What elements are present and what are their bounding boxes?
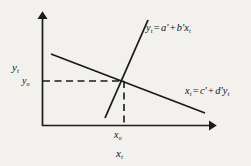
x-axis-label-sub: t [121, 153, 123, 160]
x-axis-label: xt [116, 148, 123, 159]
y-axis-label: yt [12, 62, 19, 73]
equilibrium-y-label: yo [22, 76, 30, 86]
equilibrium-y-sub: o [26, 80, 29, 87]
equilibrium-diagram: yt=a'+b'xt xt=c'+d'yt yt yo xo xt [0, 0, 251, 166]
equation-downward-var-sub: t [227, 90, 229, 97]
equation-downward-line: xt=c'+d'yt [185, 86, 229, 97]
equation-downward-slope: d' [215, 85, 223, 96]
downward-sloping-line [51, 54, 205, 113]
equilibrium-x-label: xo [114, 130, 122, 140]
y-axis-label-sub: t [17, 67, 19, 74]
equation-downward-lhs: x [185, 85, 190, 96]
equation-upward-line: yt=a'+b'xt [146, 23, 191, 34]
equation-upward-plus: + [168, 22, 176, 33]
equilibrium-x-sub: o [118, 134, 121, 141]
upward-sloping-line [105, 20, 148, 118]
equation-upward-var-sub: t [189, 27, 191, 34]
equation-downward-intercept: c' [200, 85, 207, 96]
diagram-canvas [0, 0, 251, 166]
equation-upward-lhs: y [146, 22, 151, 33]
equation-downward-equals: = [191, 85, 199, 96]
equation-downward-plus: + [207, 85, 215, 96]
equation-upward-equals: = [152, 22, 160, 33]
